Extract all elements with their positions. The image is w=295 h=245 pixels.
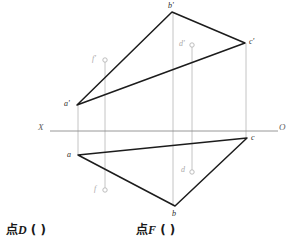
vertex-label-a: a [67, 151, 71, 159]
projector-line-group [78, 12, 246, 206]
axis-label-o: O [279, 123, 286, 132]
point-f-horizontal-marker [103, 188, 107, 192]
vertex-label-c: c [251, 134, 255, 142]
prompt-point-f: 点F ( ) [136, 224, 175, 236]
projection-triangles-group [77, 12, 247, 206]
vertex-label-c-prime: c' [249, 38, 254, 46]
exercise-figure-page: b' c' a' a b c f' f d' d X O 点D ( ) 点F (… [0, 0, 295, 245]
point-f-frontal-marker [103, 58, 107, 62]
prompt-point-f-blank[interactable]: ( ) [160, 223, 175, 237]
prompt-point-f-letter: F [148, 223, 156, 237]
point-label-f-prime: f' [92, 55, 96, 63]
prompt-point-d-letter: D [18, 223, 27, 237]
point-label-d: d [181, 166, 185, 174]
point-d-horizontal-marker [190, 170, 194, 174]
prompt-point-d: 点D ( ) [6, 224, 46, 236]
vertex-label-b: b [172, 210, 176, 218]
vertex-label-b-prime: b' [168, 2, 174, 10]
axis-label-x: X [38, 123, 44, 132]
point-label-f: f [94, 185, 96, 193]
horizontal-projection-triangle [78, 138, 247, 206]
prompt-point-d-prefix: 点 [6, 223, 18, 237]
prompt-point-d-blank[interactable]: ( ) [31, 223, 46, 237]
point-d-frontal-marker [190, 43, 194, 47]
frontal-projection-triangle [77, 12, 245, 105]
prompt-point-f-prefix: 点 [136, 223, 148, 237]
point-label-d-prime: d' [179, 40, 185, 48]
vertex-label-a-prime: a' [64, 100, 70, 108]
